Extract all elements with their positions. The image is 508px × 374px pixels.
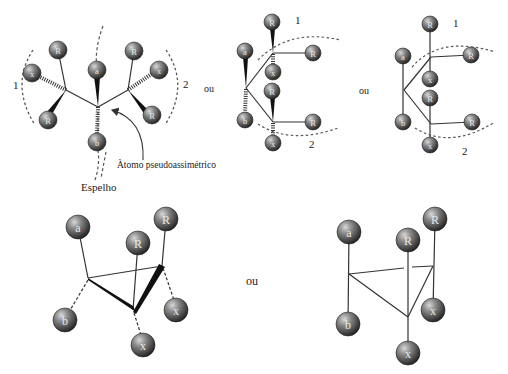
atom-r: R xyxy=(423,207,447,231)
bond xyxy=(66,90,98,107)
group-2-bracket xyxy=(165,50,178,125)
atom-label: R xyxy=(427,20,433,30)
atom-label: R xyxy=(431,213,439,227)
atom-label: b xyxy=(401,118,405,128)
atom-x: x xyxy=(421,298,445,322)
atom-r: R xyxy=(39,111,57,129)
atom-b: b xyxy=(88,133,106,151)
atom-label: x xyxy=(173,304,179,318)
structure-cyclopropane-perspective: aRRbxx xyxy=(53,207,188,357)
bond xyxy=(349,274,408,317)
atom-x: x xyxy=(150,61,168,79)
group-2-bracket xyxy=(415,122,495,138)
group-2-bracket xyxy=(258,124,338,136)
bold-bond xyxy=(88,278,136,312)
group-1-bracket xyxy=(412,46,495,67)
atom-r: R xyxy=(126,231,150,255)
atom-x: x xyxy=(422,137,438,153)
group-1-label: 1 xyxy=(453,17,459,29)
mirror-plane-line-2 xyxy=(101,152,106,178)
atom-a: a xyxy=(88,61,106,79)
atom-label: R xyxy=(468,51,474,61)
atom-label: R xyxy=(310,118,316,128)
wedge-bond xyxy=(243,57,248,88)
atom-x: x xyxy=(131,333,155,357)
dashed-bond xyxy=(134,313,141,335)
atom-label: R xyxy=(149,111,155,121)
atom-a: a xyxy=(395,48,411,64)
ou-label-2: ou xyxy=(359,85,369,96)
bond xyxy=(88,266,162,278)
atom-r: R xyxy=(422,16,438,32)
group-1-bracket xyxy=(22,50,35,125)
atom-r: R xyxy=(125,42,143,60)
atom-label: a xyxy=(75,221,81,235)
atom-label: R xyxy=(131,47,137,57)
atom-label: x xyxy=(405,347,411,361)
bond xyxy=(348,232,349,324)
atom-label: a xyxy=(95,66,99,76)
atom-x: x xyxy=(164,298,188,322)
atom-x: x xyxy=(265,64,281,80)
structure-sawhorse: RxRabRxR 1 2 Àtomo pseudoassimétrico Esp… xyxy=(13,26,216,193)
atom-a: a xyxy=(337,220,361,244)
atom-label: R xyxy=(45,116,51,126)
structure-fischer-plain: RaRxRbRx 1 2 xyxy=(395,16,495,157)
atom-x: x xyxy=(265,135,281,151)
atom-r: R xyxy=(463,47,479,63)
hashed-bond xyxy=(245,89,246,113)
atom-b: b xyxy=(53,308,77,332)
atom-label: R xyxy=(269,18,275,28)
dashed-bond xyxy=(69,280,88,312)
atom-a: a xyxy=(66,215,90,239)
atom-label: R xyxy=(469,118,475,128)
structure-fischer-wedge: RaRxRbRx 1 2 xyxy=(237,14,340,151)
mirror-plane-line xyxy=(95,26,103,180)
bond xyxy=(98,90,128,107)
hashed-bond xyxy=(97,107,98,135)
atom-b: b xyxy=(395,114,411,130)
atom-r: R xyxy=(143,106,161,124)
atom-label: x xyxy=(140,339,146,353)
atom-r: R xyxy=(49,41,67,59)
group-2-label: 2 xyxy=(183,78,189,90)
stereochemistry-diagram: RxRabRxR 1 2 Àtomo pseudoassimétrico Esp… xyxy=(0,0,508,374)
atom-x: x xyxy=(422,71,438,87)
atom-r: R xyxy=(396,228,420,252)
bold-bond xyxy=(133,264,165,314)
atom-label: R xyxy=(134,237,142,251)
group-1-label: 1 xyxy=(13,79,19,91)
atom-label: R xyxy=(55,46,61,56)
pseudo-atom-arrow xyxy=(112,110,143,160)
mirror-label: Espelho xyxy=(81,181,117,193)
atom-label: b xyxy=(345,318,351,332)
atom-label: R xyxy=(310,49,316,59)
atom-label: a xyxy=(346,226,352,240)
ou-label-1: ou xyxy=(204,83,214,94)
atom-r: R xyxy=(264,83,280,99)
atom-label: a xyxy=(243,47,247,57)
atom-label: a xyxy=(401,52,405,62)
structure-cyclopropane-plain: aRRbxx xyxy=(336,207,447,365)
dashed-bond xyxy=(163,268,174,300)
pseudo-atom-label: Àtomo pseudoassimétrico xyxy=(117,159,216,170)
atom-r: R xyxy=(422,90,438,106)
atom-x: x xyxy=(23,64,41,82)
atom-label: R xyxy=(269,87,275,97)
hashed-bond xyxy=(128,73,153,90)
hashed-bond xyxy=(38,76,66,90)
atom-label: b xyxy=(243,116,247,126)
bond xyxy=(349,268,404,274)
group-2-label: 2 xyxy=(462,145,468,157)
atom-label: R xyxy=(162,213,170,227)
atom-b: b xyxy=(336,312,360,336)
atom-label: R xyxy=(404,234,412,248)
atom-a: a xyxy=(237,43,253,59)
atom-r: R xyxy=(264,14,280,30)
atom-label: b xyxy=(62,314,68,328)
wedge-bond xyxy=(94,76,100,107)
atom-label: R xyxy=(427,94,433,104)
atom-r: R xyxy=(154,207,178,231)
atom-label: x xyxy=(430,304,436,318)
atom-label: b xyxy=(95,138,99,148)
